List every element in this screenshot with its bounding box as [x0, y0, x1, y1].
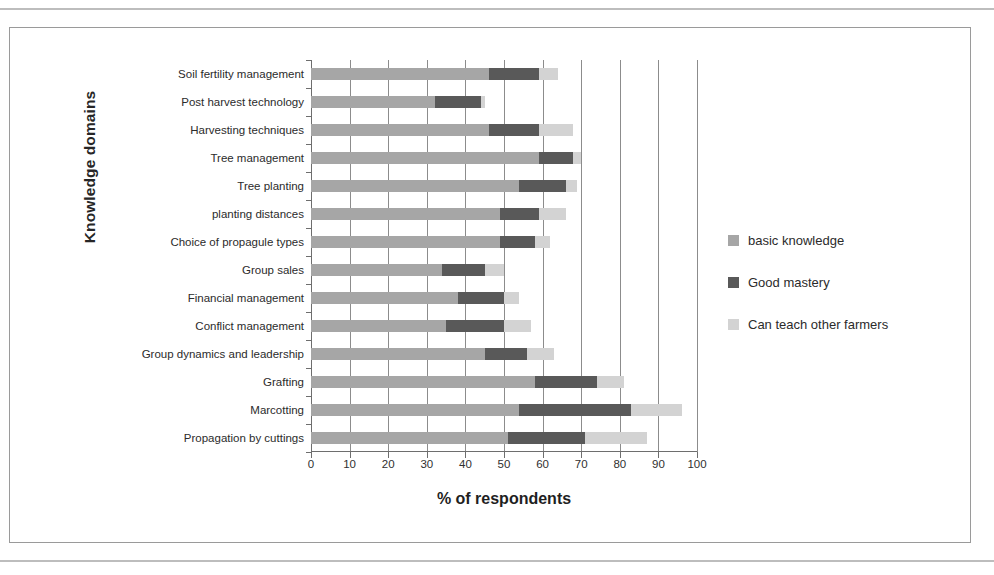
bar-segment [631, 404, 681, 416]
bar-segment [508, 432, 585, 444]
y-tick [306, 256, 311, 257]
x-tick-label-40: 40 [459, 458, 472, 470]
bar-segment [435, 96, 481, 108]
gridline-0 [311, 60, 312, 452]
category-label: planting distances [212, 208, 304, 220]
x-tick-label-60: 60 [536, 458, 549, 470]
bar-segment [535, 236, 550, 248]
chart-legend: basic knowledgeGood masteryCan teach oth… [728, 233, 963, 359]
bar-row [311, 432, 697, 444]
x-tick-label-10: 10 [343, 458, 356, 470]
bar-row [311, 152, 697, 164]
bar-segment [446, 320, 504, 332]
legend-swatch-icon [728, 319, 739, 330]
gridline-50 [504, 60, 505, 452]
legend-item[interactable]: Good mastery [728, 275, 963, 290]
bar-segment [573, 152, 581, 164]
bar-segment [519, 180, 565, 192]
bar-segment [311, 404, 519, 416]
bar-segment [311, 152, 539, 164]
bar-row [311, 96, 697, 108]
legend-swatch-icon [728, 235, 739, 246]
bar-segment [500, 208, 539, 220]
category-label: Financial management [188, 292, 304, 304]
legend-label: basic knowledge [748, 233, 844, 248]
category-axis-labels: Soil fertility managementPost harvest te… [10, 60, 304, 452]
bar-segment [311, 124, 489, 136]
legend-label: Can teach other farmers [748, 317, 888, 332]
bar-row [311, 124, 697, 136]
gridline-60 [543, 60, 544, 452]
category-label: Propagation by cuttings [184, 432, 304, 444]
x-tick-label-0: 0 [308, 458, 314, 470]
y-tick [306, 424, 311, 425]
bar-segment [500, 236, 535, 248]
y-tick [306, 396, 311, 397]
bar-segment [539, 124, 574, 136]
y-tick [306, 88, 311, 89]
bar-row [311, 68, 697, 80]
bar-segment [527, 348, 554, 360]
legend-label: Good mastery [748, 275, 830, 290]
plot-area: 0102030405060708090100 [311, 60, 697, 452]
gridline-70 [581, 60, 582, 452]
bar-segment [311, 264, 442, 276]
bar-row [311, 180, 697, 192]
gridline-90 [658, 60, 659, 452]
x-axis-line [311, 451, 697, 452]
legend-item[interactable]: basic knowledge [728, 233, 963, 248]
bar-segment [597, 376, 624, 388]
category-label: Choice of propagule types [170, 236, 304, 248]
gridline-10 [350, 60, 351, 452]
gridline-30 [427, 60, 428, 452]
bar-segment [485, 264, 504, 276]
bar-segment [311, 208, 500, 220]
gridline-20 [388, 60, 389, 452]
bar-segment [311, 320, 446, 332]
x-tick-label-90: 90 [652, 458, 665, 470]
bar-row [311, 236, 697, 248]
bar-segment [585, 432, 647, 444]
bar-segment [519, 404, 631, 416]
bar-segment [489, 124, 539, 136]
page-rule-top [0, 8, 994, 10]
bar-row [311, 376, 697, 388]
x-axis-title: % of respondents [311, 490, 697, 508]
bar-segment [311, 292, 458, 304]
bar-segment [311, 376, 535, 388]
bar-segment [504, 292, 519, 304]
y-tick [306, 284, 311, 285]
gridline-100 [697, 60, 698, 452]
bar-row [311, 348, 697, 360]
bar-segment [489, 68, 539, 80]
bar-segment [311, 180, 519, 192]
legend-item[interactable]: Can teach other farmers [728, 317, 963, 332]
bar-segment [311, 432, 508, 444]
y-tick [306, 144, 311, 145]
gridline-80 [620, 60, 621, 452]
bar-row [311, 404, 697, 416]
bar-segment [442, 264, 484, 276]
bar-row [311, 264, 697, 276]
x-tick-label-80: 80 [613, 458, 626, 470]
bar-segment [539, 152, 574, 164]
y-tick [306, 368, 311, 369]
x-tick-label-100: 100 [687, 458, 706, 470]
bar-segment [504, 320, 531, 332]
category-label: Group dynamics and leadership [142, 348, 304, 360]
bar-segment [311, 68, 489, 80]
bar-segment [311, 96, 435, 108]
bar-segment [311, 236, 500, 248]
x-tick-label-50: 50 [498, 458, 511, 470]
category-label: Grafting [263, 376, 304, 388]
bar-segment [539, 68, 558, 80]
y-tick [306, 60, 311, 61]
gridline-40 [465, 60, 466, 452]
bar-segment [539, 208, 566, 220]
x-tick-label-20: 20 [382, 458, 395, 470]
page-rule-bottom [0, 560, 994, 562]
bar-segment [485, 348, 527, 360]
legend-swatch-icon [728, 277, 739, 288]
bar-segment [311, 348, 485, 360]
y-tick [306, 312, 311, 313]
